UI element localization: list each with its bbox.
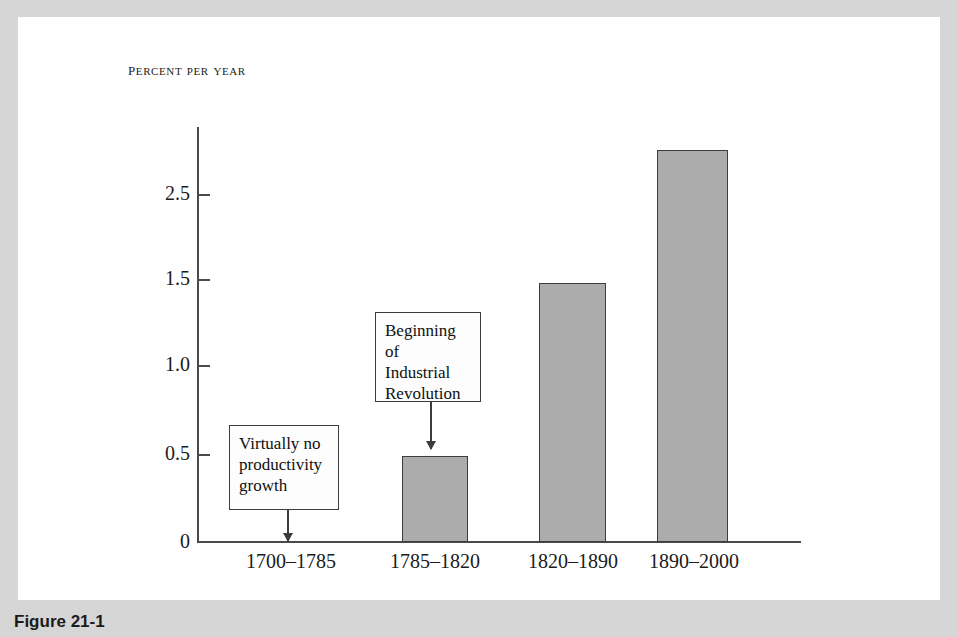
y-tick-label-2-5: 2.5 [128,183,190,203]
y-tick-mark-1-0 [199,365,210,367]
y-tick-label-0: 0 [128,531,190,551]
y-tick-mark-0-5 [199,454,210,456]
y-axis-title: Percent per year [128,58,246,80]
annotation-box-no-growth: Virtually no productivity growth [229,425,339,510]
figure-frame: Percent per year 2.5 1.5 1.0 0.5 0 1700–… [0,0,958,637]
chart-panel: Percent per year 2.5 1.5 1.0 0.5 0 1700–… [18,17,940,600]
bar-1820-1890 [539,283,606,542]
y-tick-label-1-0: 1.0 [128,354,190,374]
x-category-label-1: 1700–1785 [221,550,361,573]
annotation-line: Beginning of [385,320,471,362]
figure-caption: Figure 21-1 [14,612,105,632]
y-tick-label-0-5: 0.5 [128,443,190,463]
x-category-label-3: 1820–1890 [503,550,643,573]
plot-area: Percent per year 2.5 1.5 1.0 0.5 0 1700–… [18,17,940,600]
x-category-label-4: 1890–2000 [624,550,764,573]
x-category-label-2: 1785–1820 [365,550,505,573]
y-tick-mark-2-5 [199,194,210,196]
y-axis-line [197,127,199,543]
annotation-arrow-industrial-revolution [430,402,432,449]
annotation-line: Virtually no [239,433,329,454]
y-tick-label-1-5: 1.5 [128,268,190,288]
annotation-line: growth [239,475,329,496]
annotation-line: Industrial [385,362,471,383]
bar-1890-2000 [657,150,728,542]
annotation-line: Revolution [385,383,471,404]
annotation-arrow-no-growth [287,510,289,541]
annotation-box-industrial-revolution: Beginning of Industrial Revolution [375,312,481,402]
annotation-line: productivity [239,454,329,475]
y-tick-mark-1-5 [199,279,210,281]
bar-1785-1820 [402,456,468,542]
